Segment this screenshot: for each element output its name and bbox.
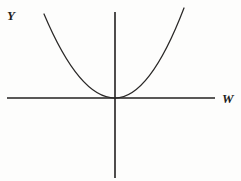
parabola-curve [44, 8, 184, 98]
parabola-figure: Y W [0, 0, 241, 181]
horizontal-axis-label: W [222, 92, 234, 105]
figure-canvas [0, 0, 241, 181]
vertical-axis-label: Y [7, 9, 15, 22]
